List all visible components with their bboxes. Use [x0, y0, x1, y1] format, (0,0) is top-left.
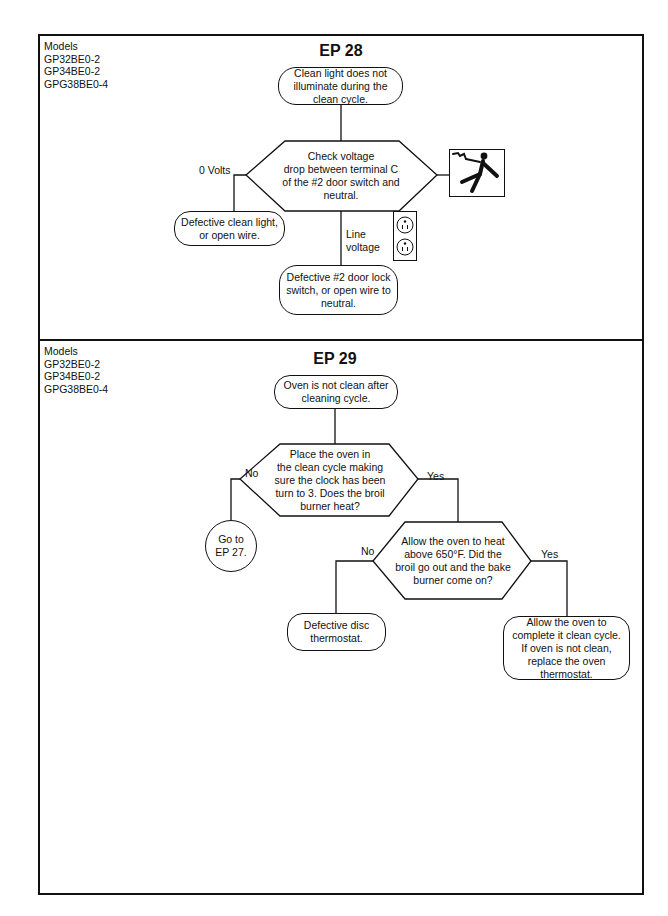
node-text-line: the clean cycle making: [275, 461, 386, 474]
node-text-line: Place the oven in: [275, 448, 386, 461]
model-number: GP34BE0-2: [44, 370, 108, 383]
duplex-outlet-icon: [393, 211, 417, 261]
ep28-decision-text: Check voltage drop between terminal C of…: [255, 143, 427, 209]
node-text-line: broil go out and the bake: [395, 561, 511, 574]
ep29-d1-yes-label: Yes: [427, 470, 444, 483]
ep29-replace-thermostat-node: Allow the oven to complete it clean cycl…: [503, 616, 630, 680]
ep29-title: EP 29: [275, 350, 395, 368]
node-text-line: thermostat.: [304, 632, 369, 645]
node-text-line: Allow the oven to heat: [395, 535, 511, 548]
node-text-line: Defective #2 door lock: [286, 271, 390, 284]
ep29-d2-yes-label: Yes: [541, 548, 558, 561]
node-text-line: above 650°F. Did the: [395, 548, 511, 561]
node-text-line: drop between terminal C: [282, 163, 399, 176]
node-text-line: thermostat.: [512, 668, 621, 681]
node-text-line: burner heat?: [275, 500, 386, 513]
ep29-d2-no-label: No: [361, 545, 374, 558]
node-text-line: Check voltage: [282, 150, 399, 163]
ep28-line-voltage-label: Line voltage: [346, 228, 380, 254]
node-text-line: Defective disc: [304, 619, 369, 632]
node-text-line: complete it clean cycle.: [512, 629, 621, 642]
model-number: GPG38BE0-4: [44, 78, 108, 91]
node-text-line: replace the oven: [512, 655, 621, 668]
node-text-line: Go to: [215, 533, 246, 546]
ep28-left-result-node: Defective clean light, or open wire.: [174, 211, 285, 246]
ep28-models-list: Models GP32BE0-2 GP34BE0-2 GPG38BE0-4: [44, 40, 108, 90]
ep29-decision2-text: Allow the oven to heat above 650°F. Did …: [384, 524, 522, 597]
node-text-line: clean cycle.: [294, 93, 388, 106]
label-line: voltage: [346, 241, 380, 254]
models-heading: Models: [44, 345, 108, 358]
node-text-line: Defective clean light,: [181, 216, 278, 229]
label-line: Line: [346, 228, 380, 241]
ep29-goto-ep27-node: Go to EP 27.: [205, 520, 257, 572]
node-text-line: sure the clock has been: [275, 474, 386, 487]
node-text-line: switch, or open wire to: [286, 284, 390, 297]
ep28-bottom-result-node: Defective #2 door lock switch, or open w…: [279, 265, 398, 315]
node-text-line: Clean light does not: [294, 67, 388, 80]
node-text-line: illuminate during the: [294, 80, 388, 93]
node-text-line: of the #2 door switch and: [282, 176, 399, 189]
node-text-line: If oven is not clean,: [512, 642, 621, 655]
ep29-start-node: Oven is not clean after cleaning cycle.: [274, 375, 398, 409]
node-text-line: turn to 3. Does the broil: [275, 487, 386, 500]
model-number: GP34BE0-2: [44, 65, 108, 78]
node-text-line: neutral.: [286, 297, 390, 310]
node-text-line: or open wire.: [181, 229, 278, 242]
electrical-shock-hazard-icon: [449, 149, 505, 197]
node-text-line: burner come on?: [395, 574, 511, 587]
node-text-line: Allow the oven to: [512, 616, 621, 629]
ep29-d1-no-label: No: [245, 467, 258, 480]
node-text-line: EP 27.: [215, 546, 246, 559]
model-number: GP32BE0-2: [44, 53, 108, 66]
ep29-models-list: Models GP32BE0-2 GP34BE0-2 GPG38BE0-4: [44, 345, 108, 395]
model-number: GPG38BE0-4: [44, 383, 108, 396]
model-number: GP32BE0-2: [44, 358, 108, 371]
node-text-line: neutral.: [282, 189, 399, 202]
ep28-start-node: Clean light does not illuminate during t…: [278, 67, 403, 105]
ep29-defective-disc-node: Defective disc thermostat.: [287, 613, 386, 651]
ep28-title: EP 28: [281, 42, 401, 60]
node-text-line: cleaning cycle.: [283, 392, 388, 405]
models-heading: Models: [44, 40, 108, 53]
ep28-zero-volts-label: 0 Volts: [199, 164, 231, 177]
ep29-decision1-text: Place the oven in the clean cycle making…: [252, 445, 408, 515]
node-text-line: Oven is not clean after: [283, 379, 388, 392]
